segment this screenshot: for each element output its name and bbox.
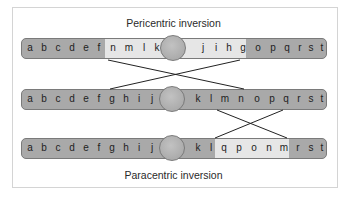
paracentric-title: Paracentric inversion	[0, 169, 347, 181]
crossing-line	[215, 110, 283, 138]
crossing-line	[217, 110, 287, 138]
